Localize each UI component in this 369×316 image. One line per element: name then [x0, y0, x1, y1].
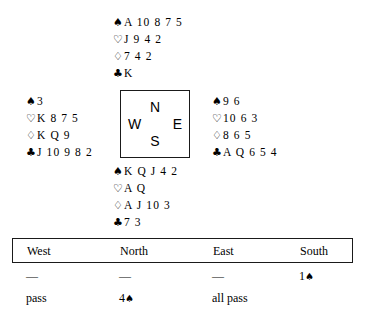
suit-row-diamonds: ♢8 6 5	[212, 127, 278, 144]
spade-cards: 3	[37, 93, 44, 110]
suit-row-clubs: ♣7 3	[113, 214, 178, 231]
suit-row-diamonds: ♢7 4 2	[113, 48, 183, 65]
bid-north: 4♠	[119, 287, 134, 310]
heart-icon: ♡	[113, 180, 124, 197]
compass-west-label: W	[128, 117, 141, 131]
club-icon: ♣	[113, 65, 124, 82]
bid-north: —	[119, 265, 131, 287]
compass-north-label: N	[121, 100, 189, 114]
auction-table: West North East South — — — 1♠ pass 4♠ a…	[12, 238, 353, 309]
hand-west: ♠3 ♡K 8 7 5 ♢K Q 9 ♣J 10 9 8 2	[26, 93, 93, 161]
spade-cards: A 10 8 7 5	[124, 14, 183, 31]
suit-row-spades: ♠9 6	[212, 93, 278, 110]
heart-cards: A Q	[124, 180, 146, 197]
spade-cards: 9 6	[223, 93, 241, 110]
suit-row-hearts: ♡10 6 3	[212, 110, 278, 127]
diamond-cards: 8 6 5	[223, 127, 252, 144]
spade-cards: K Q J 4 2	[124, 163, 178, 180]
bid-west: —	[26, 265, 38, 287]
suit-row-clubs: ♣J 10 9 8 2	[26, 144, 93, 161]
auction-row: pass 4♠ all pass	[12, 287, 353, 309]
club-icon: ♣	[26, 144, 37, 161]
diamond-icon: ♢	[113, 197, 124, 214]
bid-south: 1♠	[299, 265, 314, 288]
suit-row-diamonds: ♢A J 10 3	[113, 197, 178, 214]
diamond-icon: ♢	[212, 127, 223, 144]
heart-cards: J 9 4 2	[124, 31, 162, 48]
hand-east: ♠9 6 ♡10 6 3 ♢8 6 5 ♣A Q 6 5 4	[212, 93, 278, 161]
spade-icon: ♠	[125, 293, 134, 304]
bid-east: —	[212, 265, 224, 287]
bid-west: pass	[26, 287, 47, 309]
heart-cards: K 8 7 5	[37, 110, 79, 127]
suit-row-clubs: ♣A Q 6 5 4	[212, 144, 278, 161]
diamond-cards: K Q 9	[37, 127, 71, 144]
club-icon: ♣	[113, 214, 124, 231]
spade-icon: ♠	[26, 93, 37, 110]
suit-row-spades: ♠K Q J 4 2	[113, 163, 178, 180]
club-cards: A Q 6 5 4	[223, 144, 278, 161]
suit-row-spades: ♠3	[26, 93, 93, 110]
diamond-cards: A J 10 3	[124, 197, 171, 214]
auction-row: — — — 1♠	[12, 265, 353, 287]
suit-row-hearts: ♡K 8 7 5	[26, 110, 93, 127]
spade-icon: ♠	[305, 271, 314, 282]
club-cards: J 10 9 8 2	[37, 144, 93, 161]
spade-icon: ♠	[113, 163, 124, 180]
diamond-icon: ♢	[113, 48, 124, 65]
spade-icon: ♠	[212, 93, 223, 110]
hand-north: ♠A 10 8 7 5 ♡J 9 4 2 ♢7 4 2 ♣K	[113, 14, 183, 82]
diamond-cards: 7 4 2	[124, 48, 153, 65]
suit-row-hearts: ♡J 9 4 2	[113, 31, 183, 48]
auction-header-south: South	[300, 239, 328, 264]
suit-row-spades: ♠A 10 8 7 5	[113, 14, 183, 31]
auction-header-west: West	[27, 239, 51, 264]
auction-header-east: East	[213, 239, 234, 264]
auction-header-row: West North East South	[12, 238, 353, 263]
club-cards: K	[124, 65, 133, 82]
compass-east-label: E	[173, 117, 182, 131]
heart-icon: ♡	[113, 31, 124, 48]
heart-icon: ♡	[212, 110, 223, 127]
compass-south-label: S	[121, 134, 189, 148]
suit-row-diamonds: ♢K Q 9	[26, 127, 93, 144]
bid-east: all pass	[212, 287, 248, 309]
spade-icon: ♠	[113, 14, 124, 31]
hand-south: ♠K Q J 4 2 ♡A Q ♢A J 10 3 ♣7 3	[113, 163, 178, 231]
heart-icon: ♡	[26, 110, 37, 127]
club-icon: ♣	[212, 144, 223, 161]
suit-row-hearts: ♡A Q	[113, 180, 178, 197]
compass-box: N W E S	[120, 90, 190, 158]
club-cards: 7 3	[124, 214, 142, 231]
suit-row-clubs: ♣K	[113, 65, 183, 82]
auction-header-north: North	[120, 239, 148, 264]
diamond-icon: ♢	[26, 127, 37, 144]
heart-cards: 10 6 3	[223, 110, 258, 127]
